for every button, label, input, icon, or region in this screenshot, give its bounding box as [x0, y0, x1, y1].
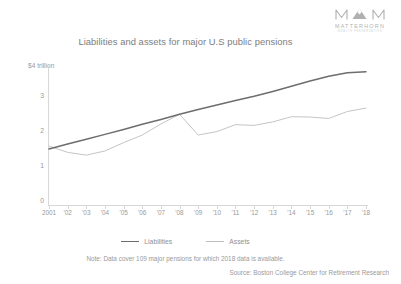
legend-swatch-assets-icon	[206, 241, 224, 242]
x-axis-tick-label: '02	[63, 209, 71, 216]
x-axis-tick-label: '07	[157, 209, 165, 216]
brand-tagline: WEALTH PRESERVATION	[327, 31, 393, 34]
series-line-liabilities	[49, 72, 366, 149]
x-axis-tick-label: '15	[306, 209, 314, 216]
x-axis-tick-label: '09	[194, 209, 202, 216]
x-axis-tick-label: '17	[343, 209, 351, 216]
series-line-assets	[49, 108, 366, 155]
legend-item-assets[interactable]: Assets	[206, 238, 249, 245]
chart-legend: Liabilities Assets	[0, 238, 371, 245]
x-axis-tick-label: '04	[101, 209, 109, 216]
x-axis-tick-label: '05	[119, 209, 127, 216]
x-axis-tick-label: '08	[175, 209, 183, 216]
x-axis-tick-label: '13	[269, 209, 277, 216]
x-axis-tick-label: '10	[213, 209, 221, 216]
chart-plot-area: $4 trillion 3 2 1 0	[0, 62, 401, 212]
x-axis-tick-label: '18	[362, 209, 370, 216]
brand-name: MATTERHORN	[327, 24, 393, 29]
x-axis-tick-label: 2001	[42, 209, 56, 216]
x-axis-tick-label: '12	[250, 209, 258, 216]
x-axis-tick-label: '14	[287, 209, 295, 216]
chart-series-canvas	[0, 62, 401, 212]
brand-logo: MATTERHORN WEALTH PRESERVATION	[327, 6, 393, 34]
x-axis-tick-label: '11	[232, 209, 240, 216]
x-axis-tick-label: '03	[82, 209, 90, 216]
legend-label-assets: Assets	[229, 238, 249, 245]
x-axis-tick-label: '06	[138, 209, 146, 216]
legend-item-liabilities[interactable]: Liabilities	[121, 238, 172, 245]
legend-label-liabilities: Liabilities	[144, 238, 172, 245]
chart-note: Note: Data cover 109 major pensions for …	[0, 255, 371, 262]
legend-swatch-liabilities-icon	[121, 241, 139, 243]
chart-source: Source: Boston College Center for Retire…	[230, 269, 390, 276]
x-axis-tick-label: '16	[325, 209, 333, 216]
matterhorn-mountain-monogram-icon	[327, 6, 393, 22]
x-axis-tick-labels: 2001'02'03'04'05'06'07'08'09'10'11'12'13…	[0, 209, 401, 221]
chart-title: Liabilities and assets for major U.S pub…	[0, 36, 371, 47]
